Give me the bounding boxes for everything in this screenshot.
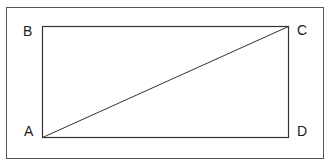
- vertex-label-b: B: [23, 23, 32, 39]
- vertex-label-d: D: [297, 123, 307, 139]
- diagonal-ac: [43, 27, 289, 138]
- vertex-label-a: A: [24, 123, 34, 139]
- rectangle-diagram: B C A D: [0, 0, 327, 164]
- outer-frame: [7, 8, 324, 159]
- vertex-label-c: C: [297, 22, 307, 38]
